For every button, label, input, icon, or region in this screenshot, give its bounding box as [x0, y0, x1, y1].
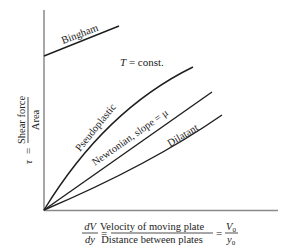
y-axis-label: τ = Shear force Area — [16, 96, 41, 164]
x-mid-denominator: Distance between plates — [101, 234, 202, 245]
x-lhs-denominator: dy — [85, 234, 95, 245]
x-lhs-numerator: dV — [84, 221, 97, 232]
x-equals-2: = — [216, 227, 222, 239]
y-axis-denominator: Area — [30, 109, 41, 130]
x-axis-label: dV dy = Velocity of moving plate Distanc… — [82, 221, 238, 247]
y-axis-equals: = — [22, 148, 34, 154]
x-mid-numerator: Velocity of moving plate — [100, 221, 204, 232]
y-axis-symbol: τ — [22, 159, 34, 164]
x-rhs-denominator: y0 — [226, 234, 236, 247]
y-axis-numerator: Shear force — [16, 96, 27, 144]
label-dilatant: Dilatant — [165, 122, 200, 149]
x-rhs-numerator: V0 — [226, 221, 236, 234]
rheology-diagram: Bingham Pseudoplastic Newtonian, slope =… — [0, 0, 285, 252]
temperature-annotation: T = const. — [120, 56, 164, 68]
